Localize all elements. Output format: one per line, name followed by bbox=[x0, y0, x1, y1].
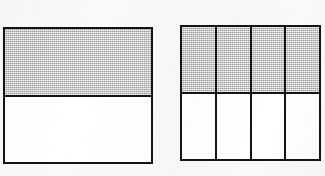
area-model-eighths-column-4 bbox=[284, 27, 319, 159]
area-model-eighths-column-1 bbox=[182, 27, 215, 159]
area-model-eighths-cell-1 bbox=[182, 27, 215, 92]
area-model-halves-cell-1 bbox=[5, 29, 151, 95]
area-model-eighths bbox=[180, 25, 321, 161]
area-model-eighths-column-2 bbox=[215, 27, 250, 159]
area-model-eighths-cell-2 bbox=[217, 27, 250, 92]
area-model-eighths-cell-8 bbox=[286, 92, 319, 159]
area-model-eighths-cell-5 bbox=[182, 92, 215, 159]
area-model-halves bbox=[3, 27, 153, 164]
figure-canvas bbox=[0, 0, 325, 176]
area-model-eighths-cell-3 bbox=[252, 27, 285, 92]
area-model-eighths-cell-7 bbox=[252, 92, 285, 159]
area-model-eighths-cell-4 bbox=[286, 27, 319, 92]
area-model-eighths-column-3 bbox=[250, 27, 285, 159]
area-model-eighths-cell-6 bbox=[217, 92, 250, 159]
area-model-halves-cell-2 bbox=[5, 95, 151, 163]
